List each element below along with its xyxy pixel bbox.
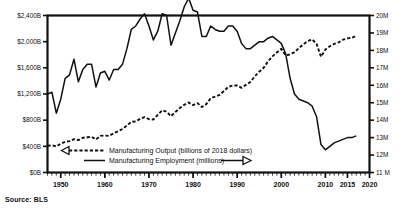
series-output-line [48, 36, 357, 147]
right-tick-label: 16M [376, 82, 388, 89]
x-tick-label: 1970 [141, 181, 157, 188]
right-tick-label: 20M [376, 12, 388, 19]
chart-legend: Manufacturing Output (billions of 2018 d… [62, 147, 253, 166]
left-tick-label: $2,000B [17, 38, 41, 45]
series-lines [48, 0, 357, 150]
left-tick-label: $1,600B [17, 64, 41, 71]
chart-canvas: $0B$400B$800B$1,200B$1,600B$2,000B$2,400… [0, 0, 405, 218]
right-axis-ticks: 11 M12M13M14M15M16M17M18M19M20M [370, 12, 390, 176]
right-tick-label: 11 M [376, 169, 390, 176]
left-tick-label: $1,200B [17, 90, 41, 97]
x-axis-ticks: 195019601970198019902000201020152020 [48, 173, 378, 188]
left-tick-label: $800B [23, 116, 41, 123]
x-tick-label: 1990 [229, 181, 245, 188]
manufacturing-output-employment-chart: $0B$400B$800B$1,200B$1,600B$2,000B$2,400… [0, 0, 405, 218]
x-tick-label: 2010 [318, 181, 334, 188]
right-tick-label: 13M [376, 134, 388, 141]
x-tick-label: 1950 [53, 181, 69, 188]
source-note: Source: BLS [5, 196, 48, 203]
right-tick-label: 17M [376, 64, 388, 71]
x-tick-label: 2015 [340, 181, 356, 188]
series-employment-line [48, 0, 357, 150]
right-tick-label: 19M [376, 29, 388, 36]
right-tick-label: 12M [376, 151, 388, 158]
left-tick-label: $2,400B [17, 12, 41, 19]
x-tick-label: 2000 [273, 181, 289, 188]
x-tick-label: 1980 [185, 181, 201, 188]
right-tick-label: 18M [376, 47, 388, 54]
left-tick-label: $400B [23, 143, 41, 150]
x-tick-label: 2020 [362, 181, 378, 188]
left-tick-label: $0B [30, 169, 41, 176]
legend-right-arrow-icon [243, 157, 251, 165]
legend-label-employment: Manufacturing Employment (millions) [109, 157, 224, 165]
right-tick-label: 14M [376, 116, 388, 123]
left-axis-ticks: $0B$400B$800B$1,200B$1,600B$2,000B$2,400… [17, 12, 47, 176]
legend-label-output: Manufacturing Output (billions of 2018 d… [109, 147, 252, 155]
x-tick-label: 1960 [97, 181, 113, 188]
right-tick-label: 15M [376, 99, 388, 106]
legend-left-arrow-icon [62, 147, 70, 155]
